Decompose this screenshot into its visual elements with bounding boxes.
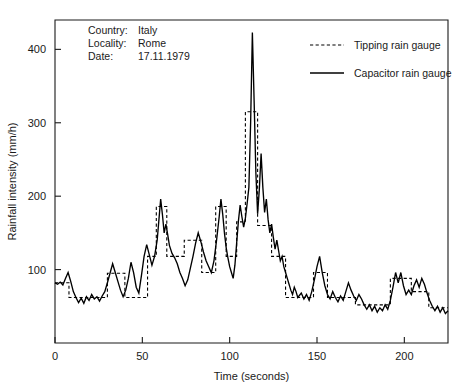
legend-label: Capacitor rain gauge (354, 67, 452, 79)
annotation-block: Country:ItalyLocality:RomeDate:17.11.197… (88, 24, 190, 62)
y-tick-label: 200 (28, 190, 46, 202)
chart-svg: 050100150200 100200300400 Time (seconds)… (0, 0, 473, 386)
y-axis-title: Rainfall intensity (mm/h) (6, 123, 18, 241)
series-line-dashed (55, 112, 448, 308)
annotation-value: Italy (138, 24, 158, 36)
annotation-value: Rome (138, 37, 166, 49)
y-tick-label: 300 (28, 117, 46, 129)
y-tick-label: 100 (28, 264, 46, 276)
y-axis-ticks: 100200300400 (28, 43, 61, 275)
legend-label: Tipping rain gauge (354, 39, 441, 51)
x-tick-label: 200 (395, 350, 413, 362)
chart-figure: 050100150200 100200300400 Time (seconds)… (0, 0, 473, 386)
x-tick-label: 150 (308, 350, 326, 362)
x-tick-label: 0 (52, 350, 58, 362)
x-axis-ticks: 050100150200 (52, 337, 414, 362)
annotation-label: Locality: (88, 37, 127, 49)
y-tick-label: 400 (28, 43, 46, 55)
annotation-label: Date: (88, 50, 113, 62)
x-axis-title: Time (seconds) (214, 370, 289, 382)
annotation-label: Country: (88, 24, 128, 36)
x-tick-label: 100 (220, 350, 238, 362)
x-tick-label: 50 (136, 350, 148, 362)
annotation-value: 17.11.1979 (138, 50, 190, 62)
chart-legend: Tipping rain gaugeCapacitor rain gauge (310, 39, 452, 79)
